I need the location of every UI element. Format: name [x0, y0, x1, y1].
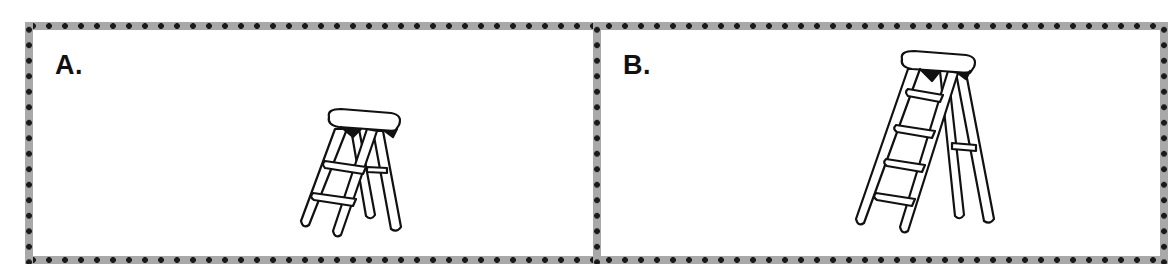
panel-a-label: A. [55, 50, 83, 81]
panel-b-label: B. [623, 50, 651, 81]
panel-b: B. [601, 30, 1160, 256]
tall-step-ladder-icon [848, 47, 1008, 247]
comparison-frame: A. B. [25, 22, 1168, 264]
frame-border-right [1160, 22, 1168, 264]
panel-a: A. [33, 30, 593, 256]
frame-divider [593, 22, 601, 264]
frame-border-left [25, 22, 33, 264]
short-step-ladder-icon [295, 103, 415, 243]
